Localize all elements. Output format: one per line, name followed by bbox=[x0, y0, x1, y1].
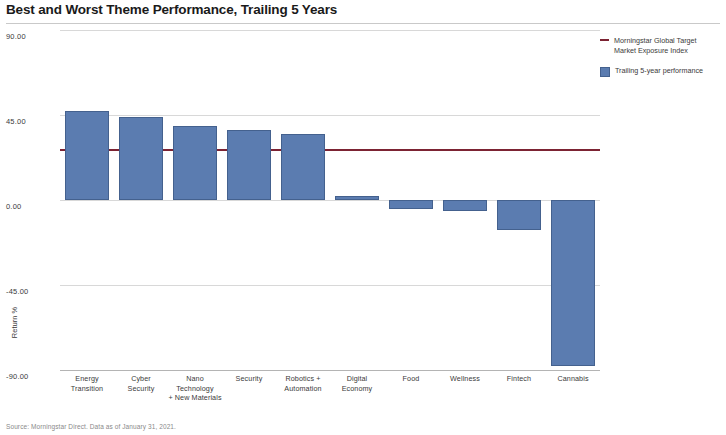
bar-wellness[interactable] bbox=[443, 200, 486, 211]
legend-line-icon bbox=[600, 39, 609, 41]
y-axis-tick-label: 0.00 bbox=[6, 202, 58, 211]
bar-cyber-security[interactable] bbox=[119, 117, 162, 200]
legend-item-label: Morningstar Global TargetMarket Exposure… bbox=[614, 36, 697, 55]
legend-item-label-line: Market Exposure Index bbox=[614, 46, 697, 56]
x-axis-tick-label-line: Cannabis bbox=[540, 374, 607, 384]
y-axis-tick-label: 45.00 bbox=[6, 117, 58, 126]
bar-nano-technology-new-materials[interactable] bbox=[173, 126, 216, 200]
bar-digital-economy[interactable] bbox=[335, 196, 378, 200]
legend-item-2[interactable]: Trailing 5-year performance bbox=[600, 66, 724, 77]
bar-security[interactable] bbox=[227, 130, 270, 200]
y-axis-tick-label: 90.00 bbox=[6, 32, 58, 41]
x-axis-tick-label-line: + New Materials bbox=[162, 393, 229, 403]
y-axis-title: Return % bbox=[10, 293, 19, 353]
legend-item-1[interactable]: Morningstar Global TargetMarket Exposure… bbox=[600, 36, 724, 55]
gridline bbox=[60, 30, 600, 31]
x-axis-line bbox=[60, 370, 600, 371]
y-axis-tick-label: -90.00 bbox=[6, 372, 58, 381]
legend-item-label-line: Trailing 5-year performance bbox=[615, 66, 703, 76]
title-divider bbox=[6, 23, 720, 24]
gridline bbox=[60, 115, 600, 116]
gridline bbox=[60, 285, 600, 286]
legend: Morningstar Global TargetMarket Exposure… bbox=[600, 36, 724, 88]
bar-fintech[interactable] bbox=[497, 200, 540, 230]
legend-item-label: Trailing 5-year performance bbox=[615, 66, 703, 76]
bar-food[interactable] bbox=[389, 200, 432, 209]
legend-swatch-icon bbox=[600, 67, 610, 77]
plot-area bbox=[60, 30, 600, 370]
x-axis-tick-label-line: Economy bbox=[324, 384, 391, 394]
x-axis-tick-label-line: Technology bbox=[162, 384, 229, 394]
source-note: Source: Morningstar Direct. Data as of J… bbox=[6, 423, 176, 430]
page-title: Best and Worst Theme Performance, Traili… bbox=[6, 2, 337, 17]
bar-robotics-automation[interactable] bbox=[281, 134, 324, 200]
bar-cannabis[interactable] bbox=[551, 200, 594, 366]
bar-energy-transition[interactable] bbox=[65, 111, 108, 200]
legend-item-label-line: Morningstar Global Target bbox=[614, 36, 697, 46]
x-axis-tick-label: Cannabis bbox=[540, 374, 607, 384]
